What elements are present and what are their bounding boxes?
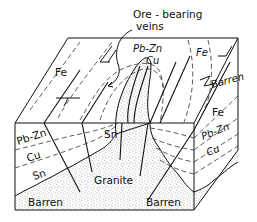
block-diagram: Ore - bearing veins Fe Pb-Zn Cu Fe Barre… xyxy=(0,0,257,222)
label-granite: Granite xyxy=(94,174,133,186)
zone-boundary xyxy=(184,40,193,122)
label-fe-right: Fe xyxy=(212,106,224,118)
label-cu-front: Cu xyxy=(25,148,42,164)
label-cu-top: Cu xyxy=(146,55,159,66)
zone-boundary xyxy=(150,128,194,138)
strike-dip-symbol xyxy=(100,46,116,62)
label-fe-top-left: Fe xyxy=(55,66,67,78)
label-sn-front-center: Sn xyxy=(104,128,117,140)
callout-line1: Ore - bearing xyxy=(133,8,202,20)
label-fe-top-right: Fe xyxy=(196,47,208,58)
vein xyxy=(82,82,108,123)
zone-boundary xyxy=(58,42,112,118)
callout-line2: veins xyxy=(136,20,164,32)
label-barren-left: Barren xyxy=(28,196,63,208)
vein xyxy=(150,62,176,123)
label-barren-right: Barren xyxy=(210,71,245,90)
label-pbzn-top: Pb-Zn xyxy=(133,43,162,54)
vein xyxy=(194,62,230,130)
label-cu-right: Cu xyxy=(205,143,221,158)
label-pbzn-front: Pb-Zn xyxy=(15,126,48,147)
label-pbzn-right: Pb-Zn xyxy=(200,121,231,142)
granite-contact-side xyxy=(194,162,238,192)
label-barren-right-bottom: Barren xyxy=(146,196,181,208)
